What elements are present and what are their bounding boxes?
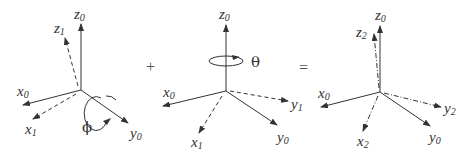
label-x0: x0 — [162, 84, 175, 101]
frame-2: z0 x0 x1 y1 y0 θ — [162, 6, 303, 151]
label-theta: θ — [251, 53, 260, 71]
label-z0: z0 — [73, 6, 85, 23]
rotation-composition-diagram: z0 z1 x0 x1 y0 ϕ + z0 x0 x1 — [0, 0, 473, 154]
x1-axis — [33, 94, 76, 119]
theta-arrowhead-icon — [232, 55, 240, 60]
x0-axis — [321, 92, 380, 107]
frame-3: z0 z2 x0 x2 y2 y0 — [317, 7, 456, 150]
frame-1: z0 z1 x0 x1 y0 ϕ — [16, 6, 142, 142]
label-z0: z0 — [374, 7, 386, 24]
phi-arrowhead-icon — [103, 118, 111, 125]
label-x1: x1 — [190, 134, 203, 151]
label-phi: ϕ — [82, 118, 92, 136]
label-z2: z2 — [355, 24, 367, 41]
x1-axis — [199, 96, 222, 133]
label-x0: x0 — [16, 83, 29, 100]
label-y0: y0 — [427, 129, 441, 146]
z2-axis — [374, 34, 379, 88]
plus-operator: + — [146, 58, 155, 75]
label-z1: z1 — [53, 20, 65, 37]
y0-axis — [226, 91, 277, 125]
label-x0: x0 — [317, 85, 330, 102]
label-y1: y1 — [289, 96, 303, 113]
x0-axis — [23, 90, 81, 105]
label-x1: x1 — [24, 121, 37, 138]
label-y2: y2 — [442, 100, 456, 117]
y0-axis — [380, 92, 430, 126]
x2-axis — [363, 96, 378, 131]
z1-axis — [65, 38, 78, 86]
equals-operator: = — [299, 59, 308, 76]
label-z0: z0 — [218, 6, 230, 23]
label-x2: x2 — [356, 133, 369, 150]
label-y0: y0 — [128, 125, 142, 142]
label-y0: y0 — [275, 129, 289, 146]
